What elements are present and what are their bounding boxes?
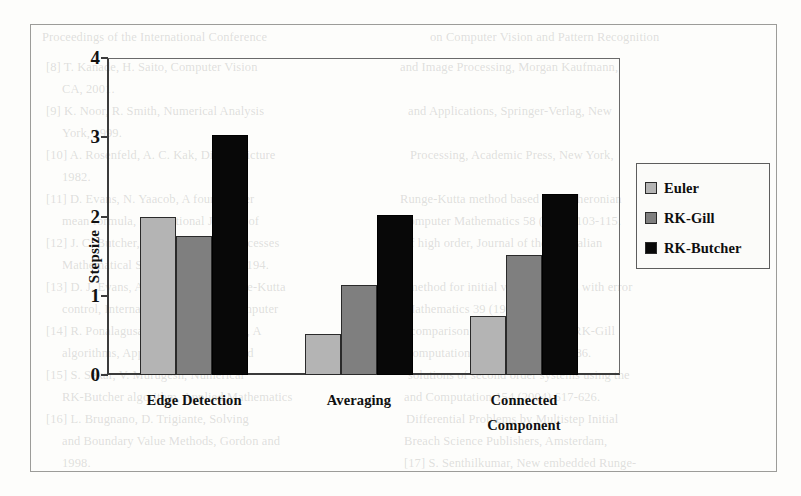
x-axis-labels: Edge DetectionAveragingConnectedComponen… <box>107 388 620 458</box>
chart-page: Proceedings of the International Confere… <box>0 0 801 496</box>
x-axis-label-line: Component <box>424 413 624 438</box>
legend-item-rk-gill: RK-Gill <box>645 203 769 233</box>
legend-item-label: RK-Gill <box>664 210 715 227</box>
legend-item-rk-butcher: RK-Butcher <box>645 233 769 263</box>
legend-item-label: RK-Butcher <box>664 240 742 257</box>
bar-euler-edge-detection <box>140 217 176 376</box>
bars-layer <box>107 58 620 375</box>
x-axis-label: ConnectedComponent <box>424 388 624 438</box>
bar-rk-gill-edge-detection <box>176 236 212 375</box>
bar-rk-gill-connected-component <box>506 255 542 375</box>
legend-item-euler: Euler <box>645 173 769 203</box>
bar-rk-butcher-edge-detection <box>212 135 248 375</box>
chart-legend: EulerRK-GillRK-Butcher <box>636 163 770 269</box>
legend-item-label: Euler <box>664 180 699 197</box>
x-axis-label-line: Connected <box>424 388 624 413</box>
y-axis-title: Stepsize <box>86 197 103 317</box>
bar-euler-averaging <box>305 334 341 375</box>
legend-swatch-rk-gill-icon <box>645 212 657 224</box>
bar-rk-butcher-averaging <box>377 215 413 375</box>
bar-rk-gill-averaging <box>341 285 377 375</box>
legend-swatch-rk-butcher-icon <box>645 242 657 254</box>
y-axis-title-wrap: Stepsize <box>46 58 86 375</box>
legend-swatch-euler-icon <box>645 182 657 194</box>
bar-rk-butcher-connected-component <box>542 194 578 375</box>
bar-euler-connected-component <box>470 316 506 375</box>
